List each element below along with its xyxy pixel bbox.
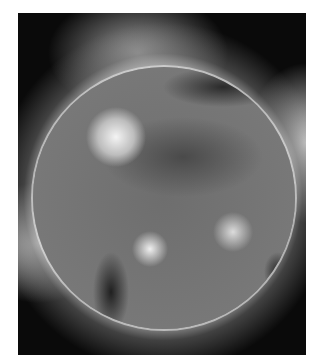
sun-photo xyxy=(18,13,306,355)
solar-disk xyxy=(33,67,295,329)
